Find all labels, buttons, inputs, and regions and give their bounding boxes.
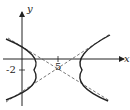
hyperbola-right-branch (80, 35, 110, 101)
graph-canvas (0, 0, 130, 110)
y-tick-label: -2 (6, 65, 16, 75)
x-tick-label: 5 (55, 62, 61, 72)
x-axis-label: x (124, 54, 130, 64)
y-axis-label: y (27, 4, 33, 14)
hyperbola-figure: y x 5 -2 (0, 0, 130, 110)
